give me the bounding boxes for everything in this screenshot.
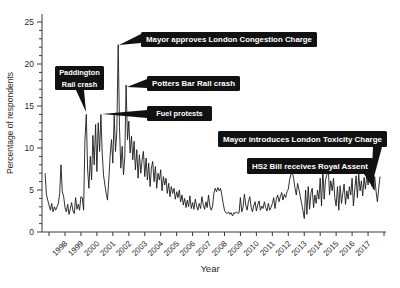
annotation-pointer [127, 79, 147, 88]
annotation-label: Fuel protests [156, 109, 202, 118]
x-tick-label: 2017 [354, 239, 373, 258]
x-tick-label: 2015 [322, 239, 341, 258]
y-tick-label: 10 [25, 143, 35, 153]
x-tick-label: 2014 [306, 239, 325, 258]
annotation-pointer [76, 90, 86, 112]
annotation-label: HS2 Bill receives Royal Assent [252, 162, 369, 171]
x-axis-title: Year [200, 263, 219, 274]
x-tick-label: 2000 [82, 239, 101, 258]
x-tick-label: 2007 [194, 239, 213, 258]
x-tick-label: 2010 [242, 239, 261, 258]
x-tick-label: 2003 [130, 239, 149, 258]
annotation-label: Mayor introduces London Toxicity Charge [223, 135, 382, 144]
x-tick-label: 2001 [98, 239, 117, 258]
y-tick-label: 20 [25, 59, 35, 69]
annotation-label: Rail crash [62, 80, 98, 89]
x-tick-label: 2002 [114, 239, 133, 258]
annotation-label: Potters Bar Rail crash [152, 79, 236, 88]
x-tick-label: 2012 [274, 239, 293, 258]
x-tick-label: 2011 [258, 239, 277, 258]
annotation-mayor-approves-london-congestion-charge: Mayor approves London Congestion Charge [119, 32, 317, 47]
x-tick-label: 2009 [226, 239, 245, 258]
x-tick-label: 2004 [146, 239, 165, 258]
y-tick-label: 0 [29, 227, 34, 237]
annotation-pointer [102, 110, 147, 118]
annotation-label: Paddington [59, 68, 100, 77]
x-ticks: 1998199920002001200220032004200520062007… [49, 232, 384, 258]
x-tick-label: 2016 [338, 239, 357, 258]
y-tick-label: 15 [25, 101, 35, 111]
y-tick-label: 25 [25, 17, 35, 27]
x-tick-label: 2006 [178, 239, 197, 258]
x-tick-label: 1999 [66, 239, 85, 258]
annotation-potters-bar-rail-crash: Potters Bar Rail crash [127, 76, 240, 91]
transport-concern-line-chart: 0510152025199819992000200120022003200420… [0, 0, 400, 288]
figure: 0510152025199819992000200120022003200420… [0, 0, 400, 288]
annotation-hs2-bill-receives-royal-assent: HS2 Bill receives Royal Assent [247, 158, 375, 191]
annotation-paddington-rail-crash: PaddingtonRail crash [55, 66, 104, 112]
annotation-fuel-protests: Fuel protests [102, 106, 212, 121]
x-tick-label: 2008 [210, 239, 229, 258]
y-ticks: 0510152025 [25, 17, 42, 237]
y-axis-title: Percentage of respondents [5, 72, 15, 174]
annotation-label: Mayor approves London Congestion Charge [146, 35, 312, 44]
y-tick-label: 5 [29, 185, 34, 195]
x-tick-label: 2005 [162, 239, 181, 258]
x-tick-label: 1998 [50, 239, 69, 258]
annotation-pointer [119, 34, 141, 45]
x-tick-label: 2013 [290, 239, 309, 258]
